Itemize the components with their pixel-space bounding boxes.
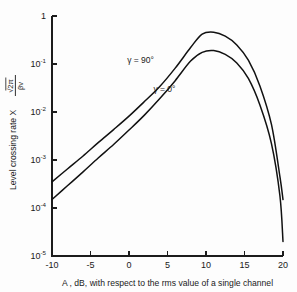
level-crossing-rate-chart: 110-110-210-310-410-5-10-505101520γ = 90… — [0, 0, 297, 292]
x-tick-label: -5 — [86, 260, 94, 270]
x-tick-label: 20 — [278, 260, 288, 270]
figure-container: 110-110-210-310-410-5-10-505101520γ = 90… — [0, 0, 297, 292]
y-tick-label: 10-5 — [30, 249, 46, 261]
x-tick-label: 5 — [165, 260, 170, 270]
series-annotation: γ = 90° — [127, 55, 154, 65]
data-curve — [52, 32, 283, 200]
y-tick-label: 10-2 — [30, 105, 46, 117]
y-tick-label: 1 — [41, 11, 46, 21]
x-tick-label: 15 — [239, 260, 249, 270]
x-tick-label: -10 — [45, 260, 58, 270]
x-tick-label: 0 — [126, 260, 131, 270]
y-axis-title-prefix: Level crossing rate X — [8, 109, 18, 190]
y-axis-title-fraction: √2πβv — [6, 75, 26, 96]
axis-lines — [52, 16, 283, 256]
fraction-denominator: βv — [16, 82, 25, 90]
fraction-numerator: √2π — [6, 79, 15, 93]
y-axis-title: Level crossing rate X — [8, 109, 18, 190]
data-curve — [52, 50, 283, 241]
y-tick-label: 10-4 — [30, 201, 46, 213]
series-annotation: γ = 0° — [153, 84, 175, 94]
x-tick-label: 10 — [201, 260, 211, 270]
y-tick-label: 10-1 — [30, 57, 46, 69]
x-axis-title: A , dB, with respect to the rms value of… — [62, 278, 273, 288]
y-tick-label: 10-3 — [30, 153, 46, 165]
